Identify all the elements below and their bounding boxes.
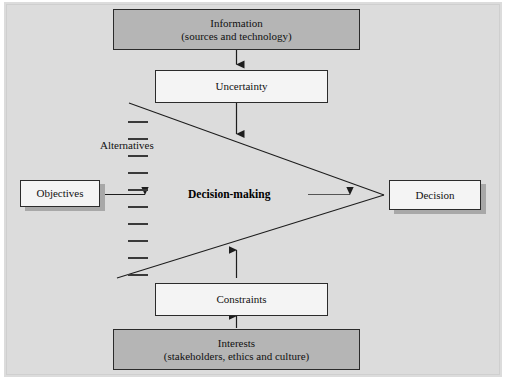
alternative-dash: [128, 189, 148, 191]
alternative-dash: [128, 223, 148, 225]
node-uncertainty-label: Uncertainty: [216, 80, 268, 93]
node-interests-line2: (stakeholders, ethics and culture): [164, 350, 309, 363]
alternative-dash: [128, 274, 148, 276]
alternative-dash: [128, 257, 148, 259]
node-interests-line1: Interests: [218, 337, 255, 350]
node-decision-label: Decision: [415, 189, 454, 202]
node-constraints[interactable]: Constraints: [155, 283, 328, 316]
node-constraints-label: Constraints: [216, 293, 266, 306]
node-interests[interactable]: Interests (stakeholders, ethics and cult…: [113, 329, 360, 370]
node-information[interactable]: Information (sources and technology): [113, 9, 360, 50]
node-information-line2: (sources and technology): [181, 30, 292, 43]
alternative-dash: [128, 155, 148, 157]
funnel-lower-edge: [117, 195, 384, 278]
label-alternatives: Alternatives: [100, 139, 154, 151]
node-uncertainty[interactable]: Uncertainty: [155, 70, 328, 103]
node-decision[interactable]: Decision: [389, 180, 481, 210]
alternative-dash: [128, 121, 148, 123]
figure-canvas: Information (sources and technology) Unc…: [0, 0, 507, 381]
label-decision-making: Decision-making: [188, 188, 270, 200]
funnel-upper-edge: [129, 103, 384, 195]
alternative-dash: [128, 172, 148, 174]
node-information-line1: Information: [210, 17, 263, 30]
alternative-dash: [128, 206, 148, 208]
node-objectives[interactable]: Objectives: [20, 180, 100, 207]
node-objectives-label: Objectives: [36, 187, 83, 200]
alternative-dash: [128, 240, 148, 242]
